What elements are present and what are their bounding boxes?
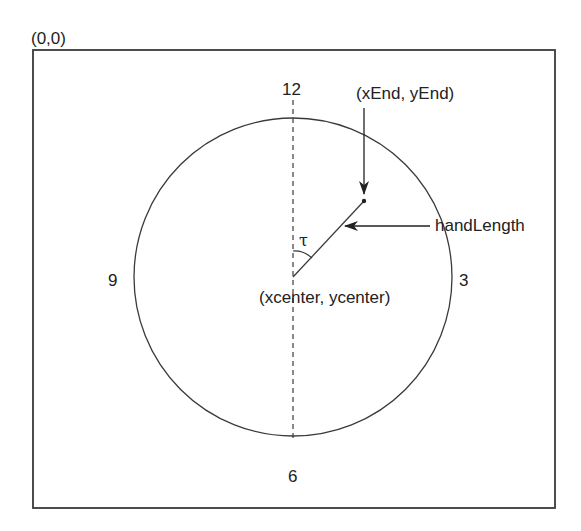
hand-endpoint-dot xyxy=(362,199,366,203)
clock-number-3: 3 xyxy=(459,271,468,290)
clock-number-9: 9 xyxy=(108,271,117,290)
end-point-label: (xEnd, yEnd) xyxy=(356,84,454,103)
angle-arc xyxy=(293,251,312,258)
origin-label: (0,0) xyxy=(31,29,66,48)
angle-tau-label: τ xyxy=(299,231,308,250)
clock-number-6: 6 xyxy=(288,467,297,486)
clock-number-12: 12 xyxy=(282,80,301,99)
center-label: (xcenter, ycenter) xyxy=(259,288,390,307)
hand-length-label: handLength xyxy=(435,216,525,235)
clock-hand-diagram: (0,0) τ 12 3 6 9 (xEnd, yEnd) handLength… xyxy=(0,0,581,531)
